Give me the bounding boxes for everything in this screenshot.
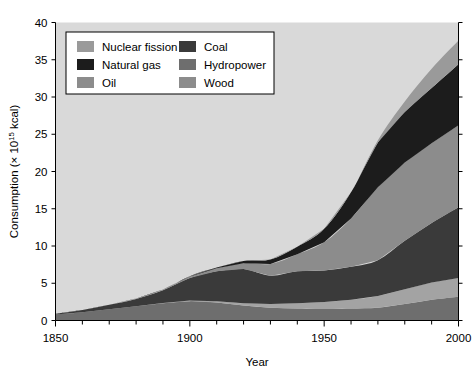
chart-svg: 05101520253035401850190019502000YearCons… bbox=[0, 0, 476, 370]
legend-label-coal: Coal bbox=[204, 41, 228, 53]
x-tick-label: 1950 bbox=[311, 332, 337, 344]
y-tick-label: 40 bbox=[35, 17, 48, 29]
y-tick-label: 10 bbox=[35, 240, 48, 252]
x-axis-ticks: 1850190019502000 bbox=[43, 321, 472, 344]
legend-swatch-natural-gas bbox=[77, 59, 94, 70]
y-tick-label: 35 bbox=[35, 54, 48, 66]
legend-label-nuclear-fission: Nuclear fission bbox=[102, 41, 177, 53]
y-tick-label: 0 bbox=[41, 315, 47, 327]
y-axis-title-exponent: 15 bbox=[7, 132, 16, 140]
legend-swatch-wood bbox=[179, 77, 196, 88]
legend-swatch-nuclear-fission bbox=[77, 41, 94, 52]
x-tick-label: 1900 bbox=[177, 332, 203, 344]
legend-label-hydropower: Hydropower bbox=[204, 59, 266, 71]
legend-label-oil: Oil bbox=[102, 77, 116, 89]
legend-swatch-coal bbox=[179, 41, 196, 52]
y-axis-title-post: kcal) bbox=[8, 105, 20, 133]
y-axis-title: Consumption (× 1015 kcal) bbox=[7, 105, 20, 239]
y-tick-label: 20 bbox=[35, 166, 48, 178]
legend-label-natural-gas: Natural gas bbox=[102, 59, 161, 71]
y-tick-label: 5 bbox=[41, 277, 47, 289]
x-tick-label: 1850 bbox=[43, 332, 69, 344]
legend-swatch-hydropower bbox=[179, 59, 196, 70]
legend: Nuclear fissionNatural gasOilCoalHydropo… bbox=[66, 32, 274, 94]
y-axis-title-pre: Consumption (× 10 bbox=[8, 141, 20, 239]
y-tick-label: 15 bbox=[35, 203, 48, 215]
legend-label-wood: Wood bbox=[204, 77, 234, 89]
y-tick-label: 30 bbox=[35, 91, 48, 103]
y-tick-label: 25 bbox=[35, 128, 48, 140]
x-axis-title: Year bbox=[245, 356, 268, 368]
legend-swatch-oil bbox=[77, 77, 94, 88]
x-tick-label: 2000 bbox=[446, 332, 472, 344]
energy-consumption-area-chart: 05101520253035401850190019502000YearCons… bbox=[0, 0, 476, 370]
